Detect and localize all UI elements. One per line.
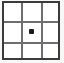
grid-line-horizontal-2 [4,42,58,44]
grid-line-vertical-1 [21,3,23,58]
grid-line-horizontal-1 [4,21,58,23]
grid-frame[interactable] [2,1,60,60]
center-dot-icon [29,29,34,34]
icon-canvas [0,0,64,63]
grid-line-vertical-2 [41,3,43,58]
